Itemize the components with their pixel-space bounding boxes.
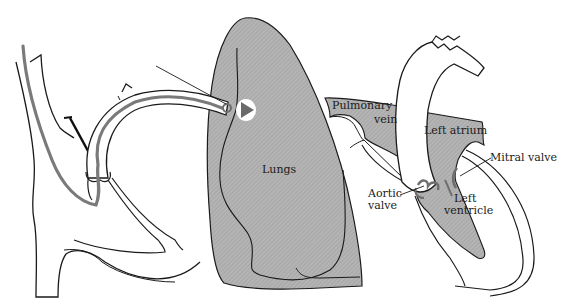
- label-left-ventricle-2: ventricle: [444, 205, 493, 217]
- label-pulmonary-vein-1: Pulmonary: [332, 100, 392, 112]
- label-mitral-valve: Mitral valve: [490, 152, 557, 164]
- label-left-atrium: Left atrium: [424, 125, 487, 137]
- cardiac-catheter-diagram: Lungs Pulmonary vein Left atrium Mitral …: [0, 0, 564, 304]
- catheter-tip-arrow: [236, 99, 256, 121]
- lung-shape: [207, 18, 362, 289]
- label-lungs: Lungs: [262, 164, 296, 176]
- catheter-line: [23, 46, 231, 205]
- label-aortic-valve-2: valve: [368, 200, 397, 212]
- mitral-valve-leader: [460, 158, 491, 176]
- diagram-artwork: [0, 0, 564, 304]
- label-pulmonary-vein-2: vein: [374, 114, 397, 126]
